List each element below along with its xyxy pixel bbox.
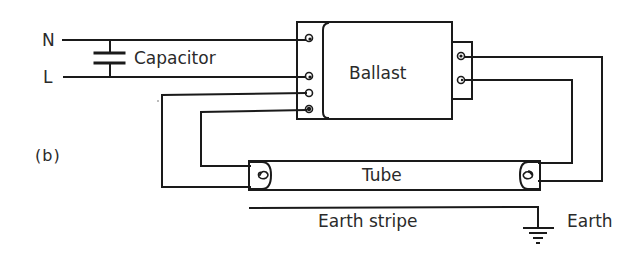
live-label: L: [43, 69, 52, 86]
wire-terminal-4: [201, 110, 306, 166]
left-tube-wires: [162, 93, 306, 187]
wire-terminal-3: [162, 93, 306, 187]
capacitor-icon: [95, 40, 124, 77]
filament-icon: [258, 171, 268, 178]
tube-label: Tube: [362, 167, 402, 184]
filament-icon: [523, 171, 532, 179]
wire-output-2: [465, 80, 572, 163]
wiring-diagram: [0, 0, 625, 256]
speck: [157, 100, 159, 102]
ballast-output-terminals: [458, 53, 465, 84]
ballast-input-terminals: [306, 35, 313, 113]
neutral-label: N: [42, 32, 55, 49]
earth-label: Earth: [567, 213, 613, 230]
ground-icon: [524, 228, 553, 243]
capacitor-label: Capacitor: [134, 50, 216, 67]
ballast-output-block: [452, 42, 472, 99]
earth-stripe-label: Earth stripe: [318, 213, 417, 230]
ballast-terminal-strip: [323, 23, 328, 118]
ballast-label: Ballast: [349, 65, 406, 82]
panel-label: (b): [35, 148, 61, 164]
